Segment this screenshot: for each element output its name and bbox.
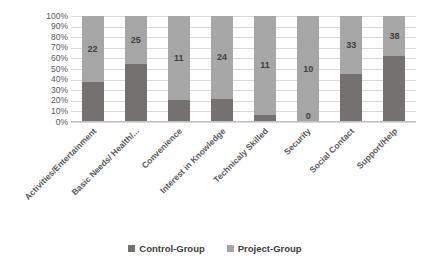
- y-axis-tick-label: 100%: [46, 12, 68, 21]
- bar-segment-control-group: [168, 100, 190, 122]
- y-axis-tick-label: 60%: [51, 54, 68, 63]
- y-axis-tick-label: 90%: [51, 22, 68, 31]
- x-axis-category-label: Activities/Entertainment: [22, 126, 98, 202]
- bar-data-label: 38: [383, 31, 405, 41]
- y-axis-labels: 100%90%80%70%60%50%40%30%20%10%0%: [30, 10, 68, 128]
- bar-segment-control-group: [340, 74, 362, 122]
- legend-color-swatch-icon: [128, 245, 135, 252]
- x-axis-line: [71, 121, 416, 122]
- bar-column: 11: [254, 16, 276, 122]
- x-axis-category-labels: Activities/EntertainmentBasic Needs/ Hea…: [0, 124, 430, 219]
- bar-data-label: 25: [125, 35, 147, 45]
- y-axis-tick-label: 50%: [51, 65, 68, 74]
- stacked-bar-chart: 100%90%80%70%60%50%40%30%20%10%0% 222511…: [0, 0, 430, 264]
- x-axis-category-label: Support/Help: [355, 126, 400, 171]
- bar-data-label: 0: [297, 111, 319, 121]
- x-axis-category-label: Social Contact: [308, 126, 357, 175]
- bar-segment-control-group: [383, 56, 405, 122]
- bar-segment-control-group: [82, 82, 104, 122]
- bar-data-label: 11: [168, 53, 190, 63]
- bar-column: 22: [82, 16, 104, 122]
- plot-area: 22251124111003338: [71, 16, 416, 122]
- bar-column: 24: [211, 16, 233, 122]
- bar-series-container: 22251124111003338: [71, 16, 416, 122]
- y-axis-tick-label: 10%: [51, 107, 68, 116]
- bar-data-label: 22: [82, 44, 104, 54]
- bar-column: 11: [168, 16, 190, 122]
- legend-label: Control-Group: [139, 243, 204, 254]
- bar-column: 33: [340, 16, 362, 122]
- bar-column: 100: [297, 16, 319, 122]
- bar-data-label: 11: [254, 60, 276, 70]
- y-axis-tick-label: 20%: [51, 96, 68, 105]
- chart-legend: Control-GroupProject-Group: [0, 243, 430, 254]
- bar-column: 38: [383, 16, 405, 122]
- x-axis-category-label: Convenience: [139, 126, 183, 170]
- y-axis-tick-label: 80%: [51, 33, 68, 42]
- legend-label: Project-Group: [238, 243, 302, 254]
- bar-data-label: 10: [297, 64, 319, 74]
- legend-item[interactable]: Control-Group: [128, 243, 204, 254]
- y-axis-tick-label: 40%: [51, 75, 68, 84]
- bar-data-label: 33: [340, 40, 362, 50]
- x-axis-category-label: Security: [282, 126, 313, 157]
- y-axis-tick-label: 30%: [51, 86, 68, 95]
- legend-item[interactable]: Project-Group: [227, 243, 302, 254]
- y-axis-tick-label: 70%: [51, 43, 68, 52]
- bar-column: 25: [125, 16, 147, 122]
- bar-segment-control-group: [211, 99, 233, 122]
- bar-segment-control-group: [125, 64, 147, 122]
- bar-data-label: 24: [211, 52, 233, 62]
- gridline: [71, 122, 416, 123]
- legend-color-swatch-icon: [227, 245, 234, 252]
